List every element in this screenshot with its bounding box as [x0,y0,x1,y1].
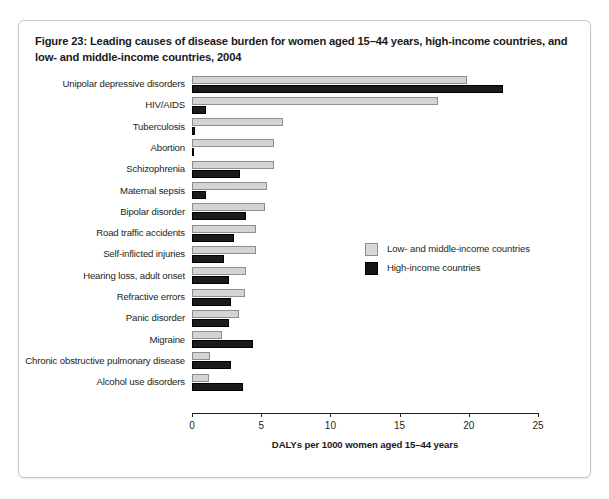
bar-high-income [192,85,503,93]
category-label: Schizophrenia [19,163,185,174]
bar-high-income [192,361,231,369]
legend-swatch-icon-low-middle-income [365,243,378,256]
bar-high-income [192,127,195,135]
category-label: Refractive errors [19,291,185,302]
x-axis-tick-label: 15 [394,420,405,431]
chart-category-row: Chronic obstructive pulmonary disease [19,351,579,372]
x-axis-tick-label: 20 [463,420,474,431]
chart-category-row: Tuberculosis [19,117,579,138]
legend-item-low-middle-income: Low- and middle-income countries [365,241,575,260]
chart-category-row: HIV/AIDS [19,95,579,116]
category-label: Chronic obstructive pulmonary disease [19,355,185,366]
category-label: Maternal sepsis [19,185,185,196]
bar-low-middle-income [192,352,210,360]
bar-low-middle-income [192,267,246,275]
chart-category-row: Maternal sepsis [19,181,579,202]
category-label: Migraine [19,334,185,345]
bar-low-middle-income [192,374,209,382]
bar-high-income [192,340,253,348]
legend-item-high-income: High-income countries [365,260,575,279]
chart-legend: Low- and middle-income countries High-in… [365,241,575,279]
chart-category-row: Abortion [19,138,579,159]
x-axis-tick-mark [400,413,401,417]
chart-category-row: Unipolar depressive disorders [19,74,579,95]
bar-low-middle-income [192,331,222,339]
bar-high-income [192,212,246,220]
legend-swatch-icon-high-income [365,262,378,275]
bar-high-income [192,383,243,391]
category-label: Hearing loss, adult onset [19,270,185,281]
chart-category-row: Refractive errors [19,287,579,308]
x-axis-label: DALYs per 1000 women aged 15–44 years [192,439,538,450]
category-label: Road traffic accidents [19,227,185,238]
bar-low-middle-income [192,203,265,211]
category-label: Alcohol use disorders [19,376,185,387]
bar-high-income [192,234,234,242]
category-label: Panic disorder [19,312,185,323]
figure-title: Figure 23: Leading causes of disease bur… [35,33,571,65]
bar-high-income [192,148,194,156]
chart-category-row: Alcohol use disorders [19,372,579,393]
bar-low-middle-income [192,182,267,190]
bar-low-middle-income [192,97,438,105]
bar-high-income [192,276,229,284]
bar-low-middle-income [192,289,245,297]
x-axis-tick-label: 10 [325,420,336,431]
category-label: HIV/AIDS [19,99,185,110]
figure-card: Figure 23: Leading causes of disease bur… [18,20,591,478]
bar-high-income [192,191,206,199]
x-axis-tick-label: 0 [189,420,195,431]
bar-low-middle-income [192,118,283,126]
legend-label-high-income: High-income countries [387,262,480,273]
bar-low-middle-income [192,225,256,233]
bar-high-income [192,255,224,263]
bar-low-middle-income [192,310,239,318]
x-axis-tick-mark [192,413,193,417]
x-axis-tick-mark [538,413,539,417]
category-label: Bipolar disorder [19,206,185,217]
category-label: Unipolar depressive disorders [19,78,185,89]
x-axis-tick-mark [469,413,470,417]
chart-category-row: Panic disorder [19,308,579,329]
bar-high-income [192,298,231,306]
bar-low-middle-income [192,161,274,169]
x-axis-tick-label: 5 [258,420,264,431]
bar-low-middle-income [192,246,256,254]
bar-high-income [192,106,206,114]
bar-low-middle-income [192,139,274,147]
chart-category-row: Bipolar disorder [19,202,579,223]
x-axis-tick-mark [330,413,331,417]
x-axis-tick-mark [261,413,262,417]
chart-category-row: Schizophrenia [19,159,579,180]
chart-plot-area: Unipolar depressive disordersHIV/AIDSTub… [19,73,592,473]
bar-high-income [192,170,240,178]
category-label: Self-inflicted injuries [19,248,185,259]
legend-label-low-middle-income: Low- and middle-income countries [387,243,530,254]
bar-high-income [192,319,229,327]
x-axis-tick-label: 25 [532,420,543,431]
x-axis-line [192,413,538,414]
category-label: Abortion [19,142,185,153]
chart-category-row: Migraine [19,330,579,351]
bar-low-middle-income [192,76,467,84]
category-label: Tuberculosis [19,121,185,132]
